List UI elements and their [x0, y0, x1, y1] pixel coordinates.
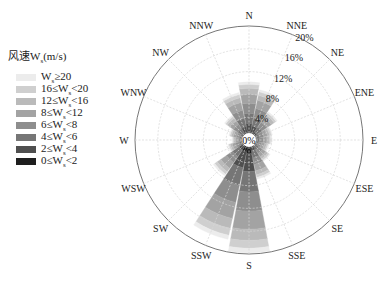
direction-label-w: W — [119, 135, 129, 146]
legend-swatch — [16, 146, 36, 153]
radial-tick-8: 8% — [266, 93, 279, 104]
radial-tick-0: 0% — [242, 135, 255, 146]
legend-label: 0≤Ws<2 — [41, 154, 77, 169]
petal-segment-s — [233, 210, 265, 229]
radial-tick-12: 12% — [274, 73, 292, 84]
petal-segment-n — [241, 94, 258, 104]
radial-tick-16: 16% — [285, 52, 303, 63]
direction-label-s: S — [246, 260, 252, 271]
direction-label-sse: SSE — [288, 250, 305, 261]
direction-label-ene: ENE — [355, 87, 374, 98]
legend-swatch — [16, 74, 36, 81]
radial-tick-4: 4% — [255, 113, 268, 124]
legend: 风速Ws(m/s) Ws≥2016≤Ws<2012≤Ws<168≤Ws<126≤… — [6, 47, 88, 167]
direction-label-wsw: WSW — [121, 183, 146, 194]
direction-label-nne: NNE — [287, 20, 308, 31]
petal-segment-w — [232, 137, 233, 143]
direction-label-ssw: SSW — [191, 250, 212, 261]
direction-label-se: SE — [332, 223, 344, 234]
direction-label-n: N — [245, 10, 252, 21]
direction-label-nw: NW — [152, 47, 169, 58]
legend-swatch — [16, 134, 36, 141]
legend-swatch — [16, 122, 36, 129]
legend-items: Ws≥2016≤Ws<2012≤Ws<168≤Ws<126≤Ws<84≤Ws<6… — [6, 71, 88, 167]
petal-segment-s — [240, 171, 259, 192]
legend-item: 0≤Ws<2 — [16, 155, 88, 167]
legend-swatch — [16, 86, 36, 93]
legend-swatch — [16, 110, 36, 117]
direction-label-nnw: NNW — [189, 20, 213, 31]
direction-label-wnw: WNW — [120, 87, 147, 98]
legend-swatch — [16, 158, 36, 165]
direction-label-e: E — [371, 135, 377, 146]
radial-tick-20: 20% — [295, 32, 313, 43]
legend-title: 风速Ws(m/s) — [8, 47, 88, 65]
direction-label-ne: NE — [331, 47, 344, 58]
direction-label-sw: SW — [153, 223, 169, 234]
legend-swatch — [16, 98, 36, 105]
direction-label-ese: ESE — [356, 183, 374, 194]
